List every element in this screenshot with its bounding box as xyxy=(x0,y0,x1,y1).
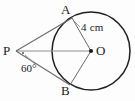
label-point-p: P xyxy=(3,44,10,57)
label-point-a: A xyxy=(61,3,70,16)
label-point-b: B xyxy=(61,84,70,97)
segment-ob-radius xyxy=(70,51,91,85)
segment-pa-tangent xyxy=(16,18,72,51)
label-center-o: O xyxy=(96,44,105,57)
angle-vertex-dot-icon xyxy=(22,52,24,54)
center-dot-icon xyxy=(89,49,93,53)
geometry-figure: A B P O 4 cm 60° xyxy=(0,0,135,101)
label-angle-measure: 60° xyxy=(21,63,36,74)
label-radius-measure: 4 cm xyxy=(81,22,104,33)
